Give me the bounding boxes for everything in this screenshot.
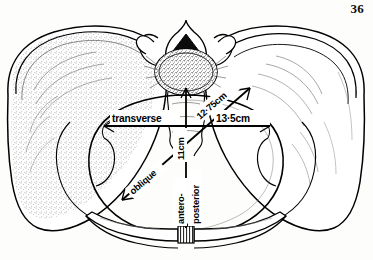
label-antero-posterior-value: 11cm bbox=[175, 137, 186, 160]
pelvis-figure: transverse 13·5cm 12·75cm oblique 1 bbox=[0, 12, 373, 252]
label-transverse-value: 13·5cm bbox=[216, 113, 250, 124]
label-antero-posterior-name-part1: antero- bbox=[175, 194, 186, 224]
page-canvas: 36 bbox=[0, 0, 373, 260]
pelvis-diagram-svg: transverse 13·5cm 12·75cm oblique 1 bbox=[0, 12, 373, 252]
label-transverse-name: transverse bbox=[112, 113, 162, 124]
label-antero-posterior-name-part2: posterior bbox=[190, 185, 201, 224]
